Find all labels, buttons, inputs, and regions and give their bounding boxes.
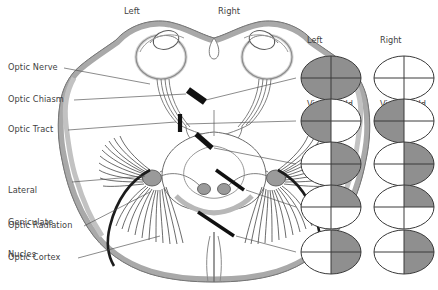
visual-field-left-optic-nerve: [301, 56, 361, 100]
figure-canvas: Left Right Optic Nerve Optic Chiasm Opti…: [0, 0, 438, 290]
visual-field-left-optic-chiasm: [301, 99, 361, 143]
visual-field-right-optic-cortex: [374, 230, 434, 274]
visual-field-left-optic-cortex: [301, 230, 361, 274]
visual-field-right-optic-tract: [374, 142, 434, 186]
visual-field-left-optic-radiation: [301, 185, 361, 229]
visual-field-left-optic-tract: [301, 142, 361, 186]
visual-field-right-optic-radiation: [374, 185, 434, 229]
visual-field-right-optic-nerve: [374, 56, 434, 100]
visual-field-right-optic-chiasm: [374, 99, 434, 143]
visual-field-grid: [0, 0, 438, 290]
